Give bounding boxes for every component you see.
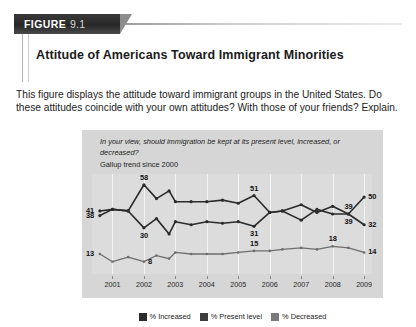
banner-fold-decoration: [120, 14, 132, 34]
data-point: [281, 209, 284, 212]
data-point: [98, 214, 101, 217]
legend-label: % Increased: [150, 312, 191, 321]
x-axis-label: 2004: [199, 280, 215, 289]
data-label: 30: [140, 231, 148, 240]
data-point: [155, 217, 158, 220]
legend-swatch: [271, 313, 279, 321]
data-point: [237, 251, 240, 254]
data-point: [111, 260, 114, 263]
data-point: [315, 208, 318, 211]
data-point: [99, 253, 102, 256]
data-point: [221, 199, 224, 202]
chart-subheading: Gallup trend since 2000: [100, 160, 178, 170]
legend-label: % Decreased: [282, 312, 326, 321]
data-label: 14: [368, 247, 376, 256]
data-point: [363, 251, 366, 254]
data-point: [142, 183, 145, 186]
data-point: [205, 220, 208, 223]
data-point: [316, 248, 319, 251]
data-point: [127, 256, 130, 259]
data-point: [221, 222, 224, 225]
data-point: [331, 205, 334, 208]
data-point: [252, 194, 255, 197]
data-point: [300, 247, 303, 250]
data-point: [142, 226, 145, 229]
data-label: 39: [344, 217, 352, 226]
data-point: [205, 200, 208, 203]
data-label: 32: [368, 220, 376, 229]
data-point: [331, 245, 334, 248]
data-point: [111, 208, 114, 211]
x-axis-tick: [333, 276, 334, 279]
chart-panel: In your view, should immigration be kept…: [82, 130, 383, 298]
x-axis-label: 2001: [104, 280, 120, 289]
data-point: [167, 189, 170, 192]
x-axis-tick: [144, 276, 145, 279]
data-point: [237, 220, 240, 223]
data-label: 18: [329, 234, 337, 243]
figure-banner: FIGURE 9.1: [14, 14, 120, 34]
data-point: [347, 247, 350, 250]
data-point: [174, 251, 177, 254]
data-point: [221, 253, 224, 256]
data-point: [155, 254, 158, 257]
data-point: [268, 250, 271, 253]
x-axis-label: 2009: [356, 280, 372, 289]
x-axis-tick: [238, 276, 239, 279]
x-axis: 200120022003200420052006200720082009: [92, 276, 372, 292]
data-label: 50: [368, 192, 376, 201]
data-label: 39: [344, 202, 352, 211]
x-axis-tick: [112, 276, 113, 279]
data-point: [237, 202, 240, 205]
data-label: 8: [148, 257, 152, 266]
data-label: 31: [250, 229, 258, 238]
left-vertical-rule: [22, 34, 29, 82]
data-point: [363, 223, 366, 226]
x-axis-label: 2005: [230, 280, 246, 289]
data-point: [98, 209, 101, 212]
chart-legend: % Increased% Present level% Decreased: [82, 312, 383, 321]
x-axis-label: 2007: [293, 280, 309, 289]
series-line: [100, 246, 364, 261]
page-title: Attitude of Americans Toward Immigrant M…: [36, 48, 344, 62]
x-axis-label: 2003: [167, 280, 183, 289]
data-label: 51: [250, 184, 258, 193]
data-point: [252, 225, 255, 228]
data-point: [363, 195, 366, 198]
data-point: [190, 253, 193, 256]
legend-swatch: [139, 313, 147, 321]
figure-banner-word: FIGURE: [24, 18, 66, 30]
legend-label: % Present level: [211, 312, 262, 321]
data-point: [174, 200, 177, 203]
data-label: 58: [140, 173, 148, 182]
legend-item: % Decreased: [271, 312, 326, 321]
x-axis-tick: [270, 276, 271, 279]
figure-banner-number: 9.1: [70, 18, 85, 30]
legend-swatch: [200, 313, 208, 321]
legend-item: % Increased: [139, 312, 191, 321]
series-line: [100, 185, 364, 225]
data-point: [253, 250, 256, 253]
data-point: [347, 212, 350, 215]
data-point: [300, 203, 303, 206]
figure-caption: This figure displays the attitude toward…: [16, 88, 406, 114]
data-point: [268, 211, 271, 214]
data-point: [174, 220, 177, 223]
data-point: [331, 212, 334, 215]
data-point: [143, 260, 146, 263]
data-point: [300, 219, 303, 222]
x-axis-label: 2008: [325, 280, 341, 289]
x-axis-label: 2006: [262, 280, 278, 289]
data-label: 15: [250, 239, 258, 248]
data-label: 38: [86, 211, 94, 220]
x-axis-tick: [364, 276, 365, 279]
data-point: [190, 223, 193, 226]
chart-heading: In your view, should immigration be kept…: [100, 137, 372, 158]
data-point: [167, 232, 170, 235]
x-axis-tick: [301, 276, 302, 279]
data-point: [168, 257, 171, 260]
data-point: [155, 197, 158, 200]
x-axis-tick: [207, 276, 208, 279]
data-point: [127, 209, 130, 212]
data-point: [315, 211, 318, 214]
